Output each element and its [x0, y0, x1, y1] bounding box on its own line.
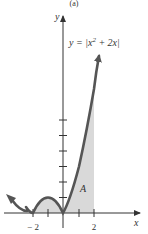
tick-label-neg2: − 2: [27, 222, 39, 232]
x-axis-label: x: [133, 217, 139, 228]
equation-label: y = |x2 + 2x|: [68, 36, 120, 48]
tick-label-2: 2: [92, 222, 97, 232]
region-label-A: A: [79, 183, 87, 194]
graph: (a) y x y = |x2 + 2x| A − 2 2: [0, 0, 148, 234]
figure-caption: (a): [70, 0, 79, 8]
y-axis-label: y: [54, 11, 60, 22]
